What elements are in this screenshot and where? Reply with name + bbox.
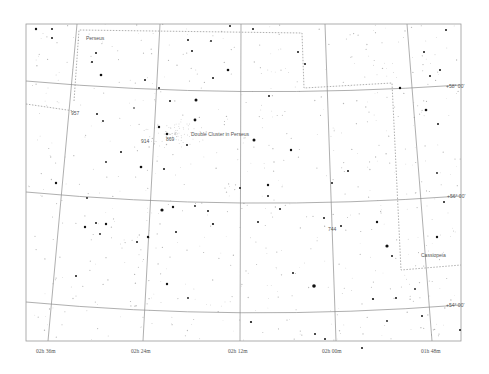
star[interactable] [250,321,252,323]
star[interactable] [166,283,168,285]
star[interactable] [386,320,388,322]
star[interactable] [323,217,325,219]
star[interactable] [186,144,188,146]
star[interactable] [169,100,171,102]
star-chart[interactable]: 02h 36m02h 24m02h 12m02h 00m01h 48m+58° … [0,0,489,374]
star[interactable] [279,208,281,210]
star[interactable] [120,151,122,153]
star[interactable] [144,79,146,81]
star[interactable] [86,197,88,199]
star[interactable] [425,109,428,112]
faint-star [373,65,374,66]
star[interactable] [95,222,97,224]
faint-star [380,211,381,212]
faint-star [259,45,260,46]
faint-star [350,86,351,87]
star[interactable] [212,77,214,79]
object-label[interactable]: 744 [328,226,337,232]
star[interactable] [95,52,97,54]
star[interactable] [195,99,198,102]
star[interactable] [399,87,401,89]
star[interactable] [100,74,103,77]
star[interactable] [191,50,193,52]
star[interactable] [55,182,57,184]
star[interactable] [391,255,393,257]
star[interactable] [239,187,241,189]
star[interactable] [175,231,177,233]
star[interactable] [166,133,169,136]
star[interactable] [102,120,104,122]
star[interactable] [160,208,163,211]
star[interactable] [414,288,416,290]
star[interactable] [147,236,149,238]
object-label[interactable]: Double Cluster in Perseus [191,131,250,137]
faint-star [386,97,387,98]
star[interactable] [324,338,326,340]
faint-star [326,175,327,176]
star[interactable] [133,107,135,109]
star[interactable] [158,87,160,89]
star[interactable] [210,40,212,42]
star[interactable] [267,184,269,186]
object-label[interactable]: 914 [141,138,150,144]
star[interactable] [445,29,447,31]
star[interactable] [459,329,461,331]
star[interactable] [194,119,197,122]
star[interactable] [268,95,270,97]
faint-star [334,129,335,130]
star[interactable] [395,297,397,299]
star[interactable] [314,333,316,335]
star[interactable] [347,170,349,172]
faint-star [418,237,419,238]
star[interactable] [304,63,306,65]
star[interactable] [172,206,174,208]
object-label[interactable]: 957 [71,110,80,116]
star[interactable] [376,221,378,223]
star[interactable] [194,205,196,207]
object-label[interactable]: 869 [166,136,175,142]
faint-star [212,35,213,36]
star[interactable] [290,149,292,151]
star[interactable] [372,298,374,300]
star[interactable] [423,51,425,53]
star[interactable] [105,223,107,225]
star[interactable] [140,166,143,169]
star[interactable] [421,315,423,317]
star[interactable] [105,161,107,163]
star[interactable] [163,168,165,170]
star[interactable] [385,244,388,247]
star[interactable] [136,241,138,243]
star[interactable] [212,223,214,225]
star[interactable] [75,275,77,277]
star[interactable] [253,139,256,142]
star[interactable] [158,126,160,128]
star[interactable] [187,297,189,299]
star[interactable] [361,347,363,349]
star[interactable] [331,182,333,184]
star[interactable] [267,195,269,197]
star[interactable] [436,172,438,174]
star[interactable] [51,28,53,30]
star[interactable] [292,272,294,274]
star[interactable] [96,113,98,115]
star[interactable] [35,28,37,30]
star[interactable] [312,284,316,288]
star[interactable] [227,69,230,72]
star[interactable] [187,39,189,41]
star[interactable] [340,225,342,227]
star[interactable] [252,28,254,30]
star[interactable] [84,226,86,228]
star[interactable] [297,51,299,53]
star[interactable] [429,75,431,77]
star[interactable] [443,201,445,203]
star[interactable] [439,69,441,71]
star[interactable] [437,123,439,125]
star[interactable] [257,221,259,223]
faint-star [381,205,382,206]
star[interactable] [436,236,438,238]
star[interactable] [207,210,209,212]
star[interactable] [51,37,53,39]
star[interactable] [91,61,93,63]
star[interactable] [229,25,231,27]
star[interactable] [99,233,101,235]
